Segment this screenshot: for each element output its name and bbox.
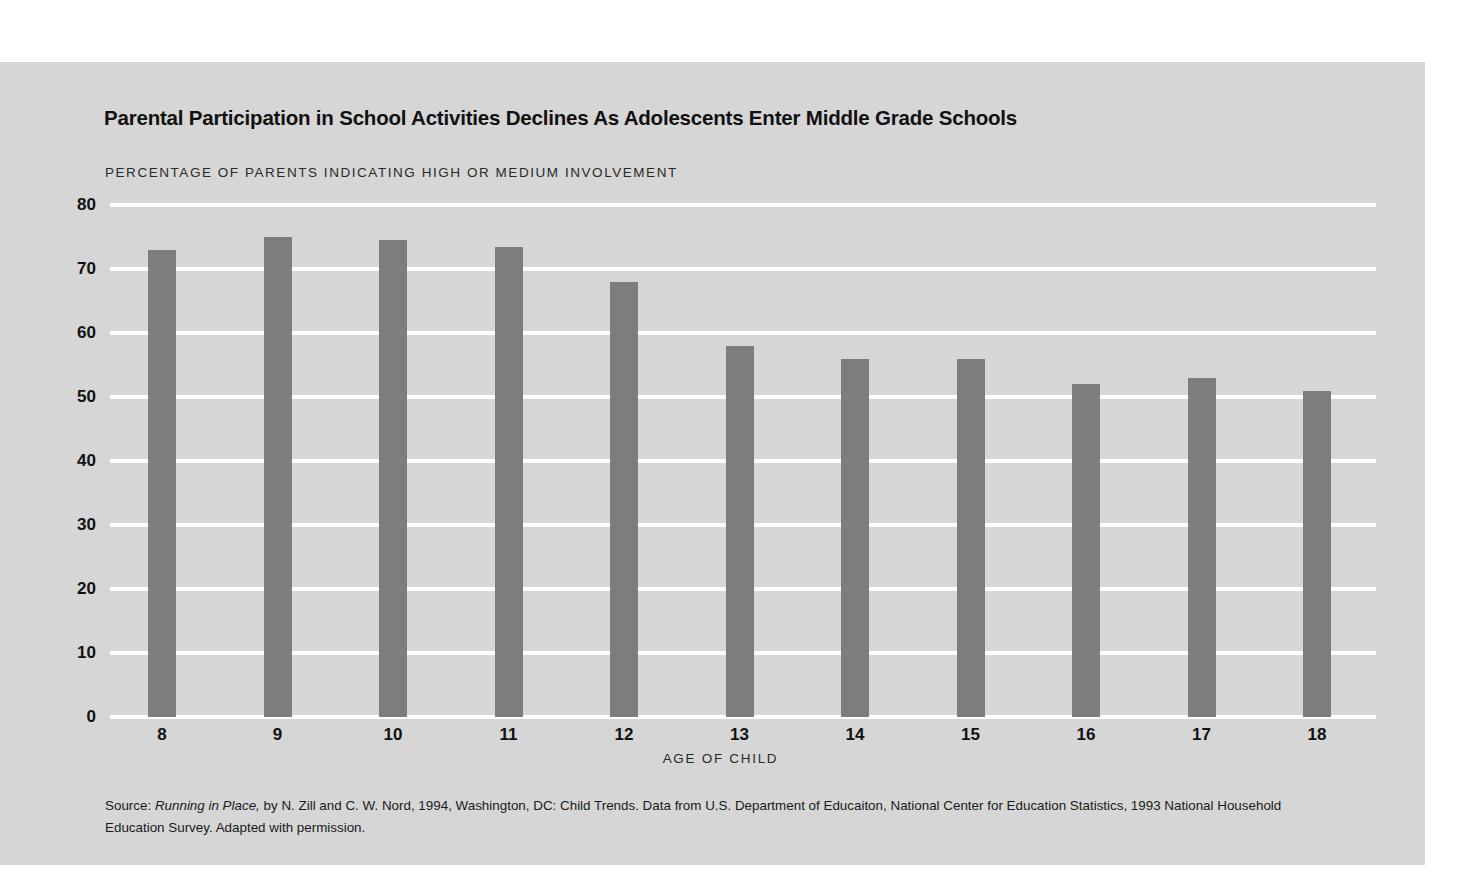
bar: [1072, 384, 1100, 717]
y-axis-tick-label: 70: [40, 259, 96, 279]
bar: [495, 247, 523, 717]
bar: [148, 250, 176, 717]
source-note: Source: Running in Place, by N. Zill and…: [105, 795, 1305, 838]
bar: [264, 237, 292, 717]
y-axis-tick-label: 60: [40, 323, 96, 343]
x-axis-tick-label: 16: [1056, 725, 1116, 745]
plot-area: 01020304050607080 89101112131415161718: [0, 0, 1481, 879]
x-axis-tick-label: 12: [594, 725, 654, 745]
gridline: [110, 331, 1376, 335]
y-axis-tick-label: 50: [40, 387, 96, 407]
x-axis-tick-label: 11: [479, 725, 539, 745]
y-axis-tick-label: 40: [40, 451, 96, 471]
gridline: [110, 267, 1376, 271]
x-axis-label-text: AGE OF CHILD: [663, 751, 779, 766]
bar: [610, 282, 638, 717]
bar: [841, 359, 869, 717]
bar: [726, 346, 754, 717]
x-axis-tick-label: 15: [941, 725, 1001, 745]
bar: [379, 240, 407, 717]
bar: [957, 359, 985, 717]
source-publication-title: Running in Place,: [155, 798, 260, 813]
x-axis-tick-label: 13: [710, 725, 770, 745]
y-axis-tick-label: 20: [40, 579, 96, 599]
x-axis-tick-label: 14: [825, 725, 885, 745]
bar: [1303, 391, 1331, 717]
x-axis-label: AGE OF CHILD: [0, 751, 1481, 766]
y-axis-tick-label: 80: [40, 195, 96, 215]
x-axis-tick-label: 10: [363, 725, 423, 745]
y-axis-tick-label: 30: [40, 515, 96, 535]
source-prefix: Source:: [105, 798, 155, 813]
source-rest: by N. Zill and C. W. Nord, 1994, Washing…: [105, 798, 1281, 835]
y-axis-tick-label: 0: [40, 707, 96, 727]
x-axis-tick-label: 9: [248, 725, 308, 745]
bar: [1188, 378, 1216, 717]
x-axis-tick-label: 18: [1287, 725, 1347, 745]
gridline: [110, 203, 1376, 207]
x-axis-tick-label: 8: [132, 725, 192, 745]
y-axis-tick-label: 10: [40, 643, 96, 663]
x-axis-tick-label: 17: [1172, 725, 1232, 745]
figure-page: Parental Participation in School Activit…: [0, 0, 1481, 879]
